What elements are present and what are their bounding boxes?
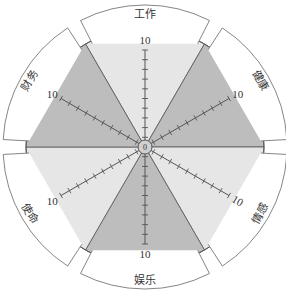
scale-max-label: 10 bbox=[140, 248, 152, 260]
scale-max-label: 10 bbox=[232, 88, 244, 100]
sector-label: 工作 bbox=[134, 8, 156, 21]
sector-label: 娱乐 bbox=[134, 273, 156, 287]
scale-max-label: 10 bbox=[47, 88, 59, 100]
scale-max-label: 10 bbox=[47, 195, 59, 207]
scale-max-label: 10 bbox=[140, 34, 152, 46]
life-wheel-diagram: 工作健康情感娱乐使命财务 101010101010 0 bbox=[0, 0, 286, 297]
center-hub: 0 bbox=[138, 140, 152, 154]
center-zero-label: 0 bbox=[143, 143, 147, 152]
